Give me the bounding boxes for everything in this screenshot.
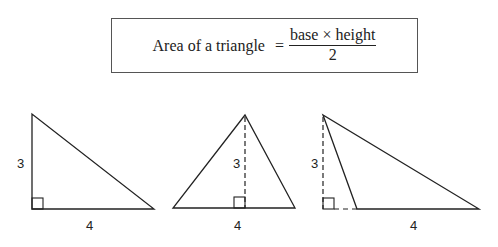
- height-label: 3: [311, 156, 318, 171]
- height-label: 3: [17, 156, 24, 171]
- right-angle-marker: [32, 198, 43, 209]
- right-angle-marker: [323, 198, 334, 209]
- base-label: 4: [410, 218, 417, 233]
- base-label: 4: [234, 218, 241, 233]
- obtuse-triangle: 3 4: [311, 115, 479, 233]
- acute-triangle: 3 4: [173, 115, 295, 233]
- right-triangle: 3 4: [17, 114, 154, 233]
- height-label: 3: [233, 156, 240, 171]
- base-label: 4: [86, 218, 93, 233]
- triangles-diagram: 3 4 3 4 3 4: [0, 0, 498, 247]
- right-angle-marker: [234, 197, 245, 208]
